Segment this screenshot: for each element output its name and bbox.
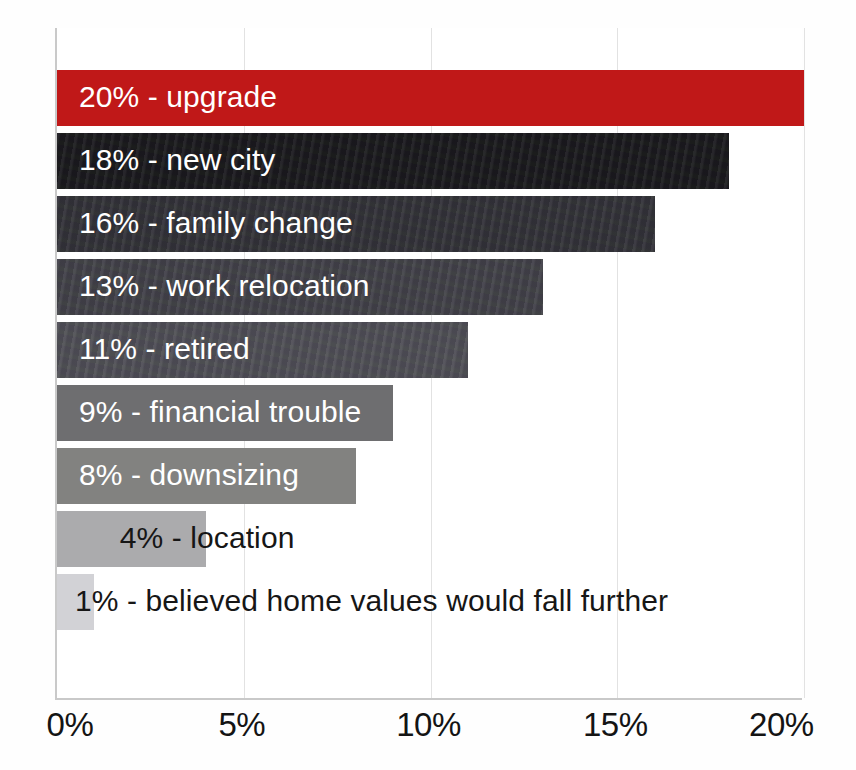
gridline-20 — [804, 28, 805, 698]
bar-label: 1% - believed home values would fall fur… — [75, 586, 668, 616]
bar-row[interactable]: 11% - retired — [57, 322, 804, 378]
bar-label: 11% - retired — [79, 334, 250, 364]
x-axis: 0%5%10%15%20% — [0, 706, 856, 764]
x-tick-label: 20% — [749, 706, 814, 744]
bar-row[interactable]: 18% - new city — [57, 133, 804, 189]
bar-chart: 20% - upgrade18% - new city16% - family … — [0, 0, 856, 770]
bar-row[interactable]: 16% - family change — [57, 196, 804, 252]
x-tick-label: 5% — [218, 706, 265, 744]
bar-row[interactable]: 1% - believed home values would fall fur… — [57, 574, 804, 630]
bars-layer: 20% - upgrade18% - new city16% - family … — [57, 28, 802, 698]
bar-row[interactable]: 4% - location — [57, 511, 804, 567]
bar-row[interactable]: 20% - upgrade — [57, 70, 804, 126]
bar-row[interactable]: 9% - financial trouble — [57, 385, 804, 441]
bar-row[interactable]: 8% - downsizing — [57, 448, 804, 504]
bar-label: 8% - downsizing — [79, 460, 299, 490]
bar-label: 4% - location — [120, 523, 295, 553]
bar-label: 16% - family change — [79, 208, 353, 238]
x-tick-label: 10% — [396, 706, 461, 744]
bar-label: 18% - new city — [79, 145, 275, 175]
bar-row[interactable]: 13% - work relocation — [57, 259, 804, 315]
plot-area: 20% - upgrade18% - new city16% - family … — [55, 28, 802, 700]
bar-label: 20% - upgrade — [79, 82, 277, 112]
x-tick-label: 0% — [47, 706, 94, 744]
bar-label: 13% - work relocation — [79, 271, 370, 301]
bar-label: 9% - financial trouble — [79, 397, 361, 427]
x-tick-label: 15% — [583, 706, 648, 744]
